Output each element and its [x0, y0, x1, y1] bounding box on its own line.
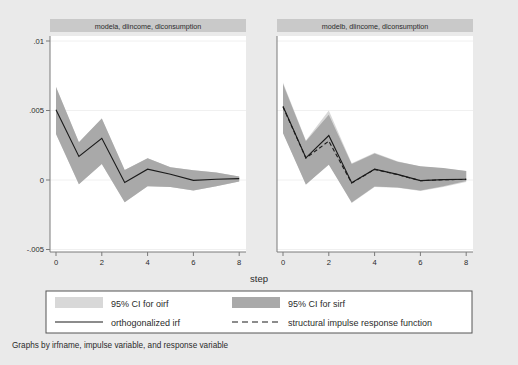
x-tick-label-6: 6: [191, 258, 195, 267]
legend-label-sirf-ci: 95% CI for sirf: [288, 299, 346, 309]
x-axis-title: step: [250, 273, 268, 284]
x-tick-label-4: 4: [145, 258, 149, 267]
legend-swatch-sirf: [232, 297, 280, 308]
graph-note: Graphs by irfname, impulse variable, and…: [12, 341, 229, 350]
x-tick-label-4: 4: [372, 258, 376, 267]
x-tick-label-8: 8: [464, 258, 468, 267]
x-tick-label-2: 2: [100, 258, 104, 267]
x-tick-label-2: 2: [327, 258, 331, 267]
y-tick-label-1: -.005: [27, 245, 44, 254]
legend-label-oirf-ci: 95% CI for oirf: [111, 299, 169, 309]
irf-chart-svg: modela, dlincome, dlconsumption: [0, 0, 518, 365]
x-tick-label-8: 8: [237, 258, 241, 267]
x-tick-label-6: 6: [418, 258, 422, 267]
x-tick-label-0: 0: [281, 258, 285, 267]
x-tick-label-0: 0: [54, 258, 58, 267]
panel-modelb: modelb, dlincome, dlconsumption: [277, 19, 473, 267]
legend-swatch-oirf: [55, 297, 103, 308]
legend-label-orthogonalized-irf: orthogonalized irf: [111, 318, 181, 328]
legend-label-structural-irf: structural impulse response function: [288, 318, 432, 328]
panel-modela: modela, dlincome, dlconsumption: [27, 19, 246, 267]
stata-graph-window: modela, dlincome, dlconsumption: [0, 0, 518, 365]
panel-title-right: modelb, dlincome, dlconsumption: [322, 22, 429, 31]
legend: 95% CI for oirf 95% CI for sirf orthogon…: [46, 291, 472, 333]
graph-area: modela, dlincome, dlconsumption: [0, 0, 518, 365]
y-tick-label-2: 0: [40, 176, 44, 185]
y-tick-label-3: .005: [29, 106, 44, 115]
panel-title-left: modela, dlincome, dlconsumption: [95, 22, 202, 31]
y-tick-label-4: .01: [33, 37, 44, 46]
